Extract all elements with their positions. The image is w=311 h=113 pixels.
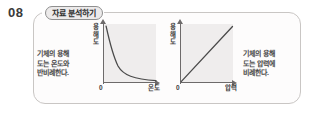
note-right: 기체의 용해 도는 압력에 비례한다. [243, 49, 299, 78]
chart-temperature-x-label: 온도 [148, 84, 160, 92]
item-number: 08 [8, 6, 23, 20]
chart-temperature: 용해도 0 온도 [86, 22, 160, 94]
chart-temperature-origin-label: 0 [99, 84, 103, 92]
note-left: 기체의 용해 도는 온도와 반비례한다. [37, 49, 89, 78]
chart-temperature-y-label: 용해도 [91, 23, 101, 46]
section-badge: 자료 분석하기 [45, 6, 103, 20]
worksheet-panel: 08 자료 분석하기 기체의 용해 도는 온도와 반비례한다. 용해도 0 온도… [0, 0, 311, 113]
chart-pressure-y-label: 용해도 [168, 23, 178, 46]
chart-pressure-x-label: 압력 [225, 84, 237, 92]
chart-pressure: 용해도 0 압력 [163, 22, 237, 94]
section-badge-label: 자료 분석하기 [52, 9, 96, 18]
chart-pressure-origin-label: 0 [176, 84, 180, 92]
